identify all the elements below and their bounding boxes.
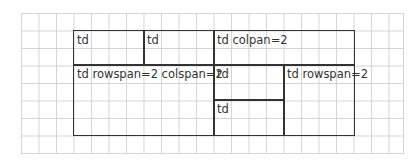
cell-r1c2: td xyxy=(143,30,215,66)
cell-r2c1-rowspan-colspan: td rowspan=2 colspan=2 xyxy=(73,64,215,136)
cell-r1c1: td xyxy=(73,30,145,66)
cell-r2c4-rowspan: td rowspan=2 xyxy=(283,64,355,136)
cell-r3c3: td xyxy=(213,99,285,136)
cell-r2c3: td xyxy=(213,64,285,101)
cell-r1c3-colspan: td colpan=2 xyxy=(213,30,355,66)
